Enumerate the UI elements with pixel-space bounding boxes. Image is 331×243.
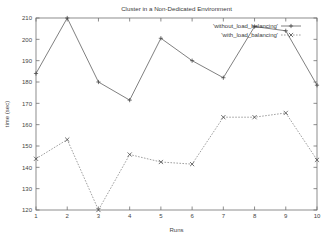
x-tick-label: 9 bbox=[284, 213, 288, 219]
x-axis-title: Runs bbox=[169, 227, 183, 233]
y-tick-label: 170 bbox=[22, 101, 33, 107]
x-tick-label: 7 bbox=[222, 213, 226, 219]
legend-label-2: 'with_load_balancing' bbox=[221, 32, 278, 38]
series-line-2 bbox=[36, 113, 317, 210]
y-tick-label: 130 bbox=[22, 186, 33, 192]
y-tick-label: 160 bbox=[22, 122, 33, 128]
plot-frame bbox=[36, 18, 317, 210]
x-tick-label: 2 bbox=[66, 213, 70, 219]
y-axis-title: time (sec) bbox=[4, 101, 10, 127]
series-line-1 bbox=[36, 18, 317, 100]
line-chart: Cluster in a Non-Dedicated Environment12… bbox=[0, 0, 331, 243]
chart-container: Cluster in a Non-Dedicated Environment12… bbox=[0, 0, 331, 243]
x-tick-label: 5 bbox=[159, 213, 163, 219]
chart-title: Cluster in a Non-Dedicated Environment bbox=[121, 5, 232, 12]
y-tick-label: 140 bbox=[22, 165, 33, 171]
x-tick-label: 10 bbox=[314, 213, 321, 219]
x-tick-label: 3 bbox=[97, 213, 101, 219]
y-tick-label: 180 bbox=[22, 79, 33, 85]
y-tick-label: 150 bbox=[22, 143, 33, 149]
y-tick-label: 190 bbox=[22, 58, 33, 64]
x-tick-label: 1 bbox=[34, 213, 38, 219]
x-tick-label: 6 bbox=[190, 213, 194, 219]
x-tick-label: 8 bbox=[253, 213, 257, 219]
x-tick-label: 4 bbox=[128, 213, 132, 219]
legend-label-1: 'without_load_balancing' bbox=[213, 23, 278, 29]
y-tick-label: 210 bbox=[22, 15, 33, 21]
y-tick-label: 120 bbox=[22, 207, 33, 213]
y-tick-label: 200 bbox=[22, 37, 33, 43]
